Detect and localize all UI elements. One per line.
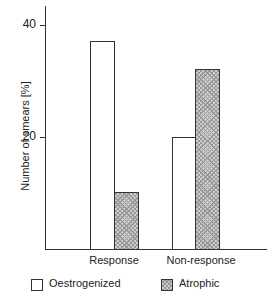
y-tick-40: [40, 25, 45, 26]
bar-response-atrophic: [114, 192, 139, 250]
y-tick-20: [40, 137, 45, 138]
x-axis: [45, 249, 267, 250]
y-axis: [45, 6, 46, 250]
bar-nonresponse-atrophic: [195, 69, 220, 250]
legend-label-oestrogenized: Oestrogenized: [49, 277, 121, 289]
bar-response-oestrogenized: [90, 41, 115, 250]
y-tick-label-40: 40: [23, 17, 36, 31]
legend-swatch-oestrogenized: [31, 279, 43, 291]
legend-label-atrophic: Atrophic: [179, 277, 219, 289]
legend-swatch-atrophic: [161, 279, 173, 291]
y-axis-label: Number of smears [%]: [19, 66, 31, 206]
bar-nonresponse-oestrogenized: [172, 137, 196, 250]
category-label-response: Response: [88, 254, 140, 266]
category-label-nonresponse: Non-response: [166, 254, 236, 266]
